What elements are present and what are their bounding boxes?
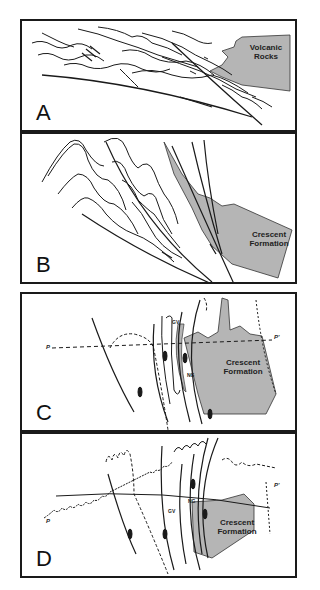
p-prime-label-d: P' [274,482,279,488]
crescent-formation-unit [184,298,276,414]
panel-a: Volcanic Rocks A [20,19,297,132]
p-label-d: P [46,518,50,524]
crescent-formation-unit [164,142,292,278]
panel-b-sketch [22,134,297,284]
panel-d-label: D [36,546,52,572]
panel-c: Crescent Formation GV NG P P' C [20,292,297,432]
p-label-c: P [46,344,50,350]
ng-label-c: NG [187,372,195,378]
ng-label-d: NG [188,498,196,504]
gv-label-d: GV [168,508,175,514]
panel-b: Crescent Formation B [20,132,297,284]
panel-b-label: B [36,252,51,278]
volcanic-rocks-label: Volcanic Rocks [248,43,284,61]
p-prime-label-c: P' [274,334,279,340]
crescent-formation-label-b: Crescent Formation [244,230,294,248]
panel-a-label: A [36,100,51,126]
crescent-formation-label-d: Crescent Formation [212,518,262,536]
gv-label-c: GV [172,319,179,325]
panel-c-label: C [36,400,52,426]
panel-a-sketch [22,21,297,132]
panel-d: Crescent Formation GV NG P P' D [20,432,297,578]
crescent-formation-label-c: Crescent Formation [218,358,268,376]
panel-d-sketch [22,434,297,578]
